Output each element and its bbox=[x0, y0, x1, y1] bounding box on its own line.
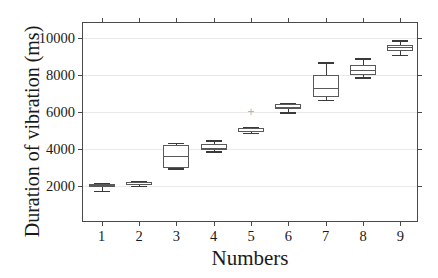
y-axis-title: Duration of vibration (ms) bbox=[21, 22, 44, 242]
y-axis-tick-label: 2000 bbox=[46, 179, 75, 194]
x-axis-tick-label: 4 bbox=[210, 229, 217, 244]
x-axis-tick-label: 9 bbox=[397, 229, 404, 244]
y-axis-tick-right bbox=[417, 186, 422, 187]
y-axis-tick-right bbox=[417, 112, 422, 113]
whisker-cap-upper bbox=[392, 40, 408, 42]
y-axis-tick-label: 6000 bbox=[46, 105, 75, 120]
y-axis-tick-label: 10000 bbox=[39, 31, 75, 46]
x-axis-tick-label: 3 bbox=[173, 229, 180, 244]
x-axis-tick bbox=[214, 221, 215, 226]
whisker-cap-lower bbox=[392, 55, 408, 57]
x-axis-tick-label: 5 bbox=[247, 229, 254, 244]
x-axis-tick bbox=[288, 221, 289, 226]
x-axis-title: Numbers bbox=[82, 246, 418, 271]
y-axis-tick-label: 4000 bbox=[46, 142, 75, 157]
x-axis-tick bbox=[139, 221, 140, 226]
x-axis-tick-label: 2 bbox=[135, 229, 142, 244]
x-axis-tick-label: 8 bbox=[359, 229, 366, 244]
x-axis-tick bbox=[251, 221, 252, 226]
plot-area: 200040006000800010000123456789+ bbox=[82, 22, 418, 222]
x-axis-tick bbox=[176, 221, 177, 226]
x-axis-tick bbox=[363, 221, 364, 226]
x-axis-tick bbox=[400, 221, 401, 226]
median-line bbox=[387, 47, 413, 48]
x-axis-tick-label: 7 bbox=[322, 229, 329, 244]
y-axis-tick-right bbox=[417, 149, 422, 150]
y-axis-tick-label: 8000 bbox=[46, 68, 75, 83]
y-axis-tick-right bbox=[417, 75, 422, 76]
x-axis-tick-label: 6 bbox=[285, 229, 292, 244]
x-axis-tick bbox=[326, 221, 327, 226]
x-axis-tick bbox=[102, 221, 103, 226]
boxplot-figure: Duration of vibration (ms) 2000400060008… bbox=[0, 0, 438, 278]
x-axis-tick-label: 1 bbox=[98, 229, 105, 244]
y-axis-tick-right bbox=[417, 38, 422, 39]
box-plot-group bbox=[83, 23, 417, 221]
